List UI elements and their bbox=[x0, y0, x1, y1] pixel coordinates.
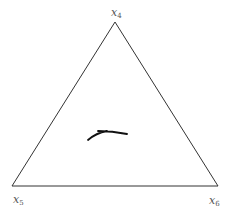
trajectory-curve bbox=[88, 131, 127, 140]
simplex-triangle bbox=[12, 22, 218, 186]
vertex-label-x4: x4 bbox=[111, 7, 122, 20]
vertex-label-x5: x5 bbox=[13, 194, 24, 207]
vertex-label-x6: x6 bbox=[209, 195, 220, 208]
ternary-diagram bbox=[0, 0, 230, 214]
